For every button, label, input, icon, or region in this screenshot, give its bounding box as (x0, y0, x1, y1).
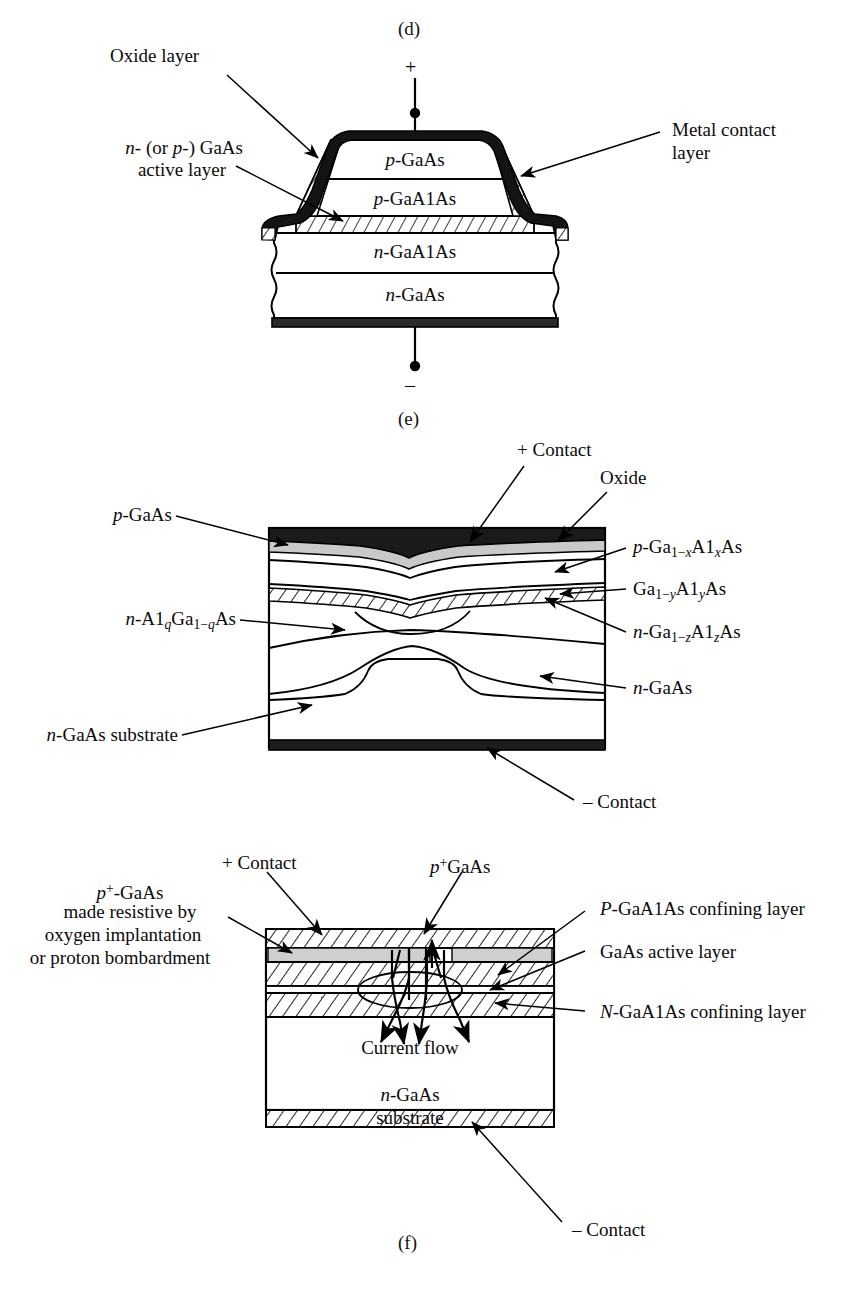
callout-oxide-e: Oxide (600, 466, 646, 489)
callout-n-gaas-substrate-e: n-GaAs substrate (0, 723, 178, 746)
callout-metal-contact-line1: Metal contact (672, 118, 776, 141)
figure-page: (d) + – Oxide layer n- (or p-) GaAs acti… (0, 0, 861, 1290)
callout-gaas-active-f: GaAs active layer (600, 940, 736, 963)
callout-resistive-line4: or proton bombardment (0, 946, 240, 969)
callout-minus-contact-f: – Contact (572, 1218, 645, 1241)
callout-n-gaas-e: n-GaAs (633, 676, 692, 699)
callout-active-layer-line2: active layer (0, 158, 226, 181)
panel-d-plus-terminal: + (405, 56, 416, 79)
panel-tag-d: (d) (398, 18, 420, 40)
label-n-gaas-substrate-f-line1: n-GaAs (335, 1083, 485, 1106)
callout-n-gaalas-confining-f: N-GaA1As confining layer (600, 1000, 806, 1023)
callout-p-ga1xal-xas-e: p-Ga1−xA1xAs (633, 535, 742, 564)
callout-active-layer-line1: n- (or p-) GaAs (0, 136, 243, 159)
panel-tag-f: (f) (398, 1232, 417, 1254)
layer-label-p-gaas-d: p-GaAs (335, 148, 495, 171)
callout-n-alqga1qas-e: n-A1qGa1−qAs (0, 607, 236, 636)
callout-plus-contact-f: + Contact (222, 851, 297, 874)
label-current-flow: Current flow (315, 1036, 505, 1059)
callout-minus-contact-e: – Contact (583, 790, 656, 813)
panel-d-minus-terminal: – (405, 374, 415, 397)
callout-pplus-gaas-f: p+GaAs (430, 851, 491, 878)
callout-p-gaalas-confining-f: P-GaA1As confining layer (600, 897, 805, 920)
callout-metal-contact-line2: layer (672, 141, 710, 164)
callout-p-gaas-e: p-GaAs (0, 503, 172, 526)
callout-ga1yal-yas-e: Ga1−yA1yAs (633, 577, 726, 606)
layer-label-n-gaas-d: n-GaAs (340, 283, 490, 306)
callout-resistive-line3: oxygen implantation (8, 923, 238, 946)
layer-label-n-gaalas-d: n-GaA1As (330, 240, 500, 263)
panel-tag-e: (e) (398, 408, 419, 430)
panel-e-artwork (176, 466, 626, 800)
callout-n-ga1zal-zas-e: n-Ga1−zA1zAs (633, 620, 741, 649)
label-n-gaas-substrate-f-line2: substrate (335, 1106, 485, 1129)
layer-label-p-gaalas-d: p-GaA1As (330, 187, 500, 210)
callout-plus-contact-e: + Contact (517, 438, 592, 461)
callout-resistive-line2: made resistive by (22, 900, 238, 923)
callout-oxide-layer: Oxide layer (110, 44, 199, 67)
panel-d-artwork (227, 75, 660, 371)
